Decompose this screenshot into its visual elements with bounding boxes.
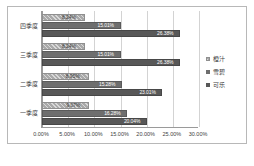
x-axis-tick-label: 15.00% bbox=[110, 130, 129, 139]
legend-swatch-icon bbox=[206, 83, 210, 87]
gridline bbox=[199, 11, 200, 127]
category-group: 8.95%15.28%23.01% bbox=[42, 70, 198, 99]
bar-value-label: 15.01% bbox=[98, 21, 114, 29]
bar-row: 9.07% bbox=[42, 102, 198, 109]
bar-row: 8.24% bbox=[42, 43, 198, 50]
bar-value-label: 15.28% bbox=[99, 80, 115, 88]
bar-value-label: 20.04% bbox=[124, 117, 140, 125]
bars-layer: 8.24%15.01%26.38%8.24%15.01%26.38%8.95%1… bbox=[42, 11, 198, 127]
chart-legend: 橙汁雪碧可乐 bbox=[206, 52, 244, 91]
bar-value-label: 15.01% bbox=[98, 50, 114, 58]
category-group: 9.07%16.28%20.04% bbox=[42, 99, 198, 128]
legend-label: 可乐 bbox=[213, 81, 225, 89]
bar-value-label: 8.24% bbox=[62, 42, 76, 50]
bar-row: 15.01% bbox=[42, 22, 198, 29]
y-axis-category-label: 三季度 bbox=[20, 51, 38, 59]
bar-value-label: 8.24% bbox=[62, 13, 76, 21]
category-group: 8.24%15.01%26.38% bbox=[42, 40, 198, 69]
legend-item[interactable]: 橙汁 bbox=[206, 52, 244, 65]
bar-value-label: 26.38% bbox=[157, 58, 173, 66]
bar-row: 26.38% bbox=[42, 30, 198, 37]
bar-value-label: 16.28% bbox=[104, 109, 120, 117]
bar-value-label: 23.01% bbox=[139, 88, 155, 96]
bar-row: 26.38% bbox=[42, 59, 198, 66]
x-axis-tick-labels: 0.00%5.00%10.00%15.00%20.00%25.00%30.00% bbox=[41, 130, 198, 142]
bar-row: 15.01% bbox=[42, 51, 198, 58]
x-axis-tick-label: 30.00% bbox=[189, 130, 208, 139]
x-axis-tick-label: 0.00% bbox=[33, 130, 49, 139]
y-axis-category-labels: 四季度三季度二季度一季度 bbox=[7, 11, 41, 128]
plot-area: 8.24%15.01%26.38%8.24%15.01%26.38%8.95%1… bbox=[41, 11, 198, 128]
x-axis-tick-label: 10.00% bbox=[84, 130, 103, 139]
y-axis-category-label: 四季度 bbox=[20, 22, 38, 30]
x-axis-tick-label: 25.00% bbox=[163, 130, 182, 139]
legend-item[interactable]: 可乐 bbox=[206, 78, 244, 91]
x-axis-tick-label: 20.00% bbox=[136, 130, 155, 139]
bar-row: 23.01% bbox=[42, 89, 198, 96]
legend-swatch-icon bbox=[206, 57, 210, 61]
bar-row: 20.04% bbox=[42, 118, 198, 125]
bar-value-label: 8.95% bbox=[66, 72, 80, 80]
legend-item[interactable]: 雪碧 bbox=[206, 65, 244, 78]
bar-row: 8.95% bbox=[42, 73, 198, 80]
legend-swatch-icon bbox=[206, 70, 210, 74]
bar-row: 8.24% bbox=[42, 14, 198, 21]
bar-row: 16.28% bbox=[42, 110, 198, 117]
legend-label: 橙汁 bbox=[213, 55, 225, 63]
bar-row: 15.28% bbox=[42, 81, 198, 88]
x-axis-tick-label: 5.00% bbox=[59, 130, 75, 139]
bar-chart-figure: 四季度三季度二季度一季度 8.24%15.01%26.38%8.24%15.01… bbox=[0, 0, 254, 166]
category-group: 8.24%15.01%26.38% bbox=[42, 11, 198, 40]
y-axis-category-label: 二季度 bbox=[20, 80, 38, 88]
bar-value-label: 9.07% bbox=[66, 101, 80, 109]
y-axis-category-label: 一季度 bbox=[20, 109, 38, 117]
legend-label: 雪碧 bbox=[213, 68, 225, 76]
bar-value-label: 26.38% bbox=[157, 29, 173, 37]
